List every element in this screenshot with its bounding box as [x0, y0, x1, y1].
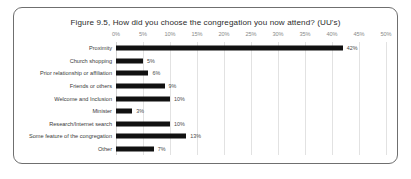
x-axis-tick-label: 0%	[112, 31, 120, 37]
category-label: Proximity	[89, 45, 112, 51]
category-label: Church shopping	[70, 58, 112, 64]
x-axis-tick-label: 30%	[272, 31, 283, 37]
category-label: Friends or others	[70, 83, 112, 89]
gridline	[386, 42, 387, 155]
x-axis-tick-label: 5%	[139, 31, 147, 37]
bar	[116, 134, 186, 139]
bar	[116, 71, 148, 76]
bar-row: Proximity42%	[116, 42, 386, 55]
x-axis-tick-label: 15%	[191, 31, 202, 37]
bar	[116, 46, 343, 51]
x-axis-tick-label: 45%	[353, 31, 364, 37]
bar-value-label: 5%	[147, 58, 155, 64]
category-label: Minister	[92, 108, 112, 114]
bar-row: Welcome and Inclusion10%	[116, 92, 386, 105]
bar	[116, 96, 170, 101]
bar-value-label: 6%	[152, 70, 160, 76]
chart-container: Figure 9.5, How did you choose the congr…	[13, 7, 398, 164]
bar-value-label: 7%	[158, 146, 166, 152]
bar-row: Some feature of the congregation13%	[116, 130, 386, 143]
x-axis-tick-label: 20%	[218, 31, 229, 37]
category-label: Prior relationship or affiliation	[40, 70, 112, 76]
x-axis-tick-label: 50%	[380, 31, 391, 37]
bar	[116, 109, 132, 114]
category-label: Some feature of the congregation	[29, 133, 112, 139]
bar	[116, 146, 154, 151]
bar-value-label: 9%	[169, 83, 177, 89]
bar-row: Prior relationship or affiliation6%	[116, 67, 386, 80]
bar	[116, 58, 143, 63]
plot-area: 0%5%10%15%20%25%30%35%40%45%50% Proximit…	[116, 42, 386, 155]
x-axis-tick-label: 25%	[245, 31, 256, 37]
category-label: Welcome and Inclusion	[54, 96, 112, 102]
x-axis-tick-label: 35%	[299, 31, 310, 37]
bar-row: Other7%	[116, 142, 386, 155]
bar-value-label: 10%	[174, 96, 185, 102]
category-label: Other	[98, 146, 112, 152]
bar-value-label: 10%	[174, 121, 185, 127]
category-label: Research/Internet search	[49, 121, 112, 127]
x-axis-tick-label: 10%	[164, 31, 175, 37]
bar	[116, 121, 170, 126]
bar-row: Research/Internet search10%	[116, 117, 386, 130]
bar-value-label: 13%	[190, 133, 201, 139]
chart-title: Figure 9.5, How did you choose the congr…	[14, 18, 397, 27]
x-axis-tick-label: 40%	[326, 31, 337, 37]
bar-value-label: 42%	[347, 45, 358, 51]
bar	[116, 83, 165, 88]
bar-row: Church shopping5%	[116, 55, 386, 68]
bar-value-label: 3%	[136, 108, 144, 114]
bar-row: Friends or others9%	[116, 80, 386, 93]
bar-row: Minister3%	[116, 105, 386, 118]
